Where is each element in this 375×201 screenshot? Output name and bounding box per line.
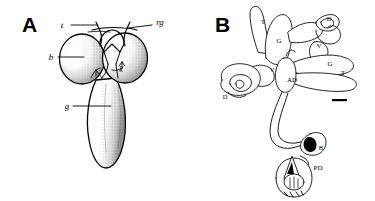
scale-bar: [332, 99, 347, 101]
label-k: k: [119, 65, 123, 74]
spiral-left-inner: [236, 80, 244, 88]
label-t-upper-left: T: [261, 18, 265, 25]
label-pd: PD: [314, 164, 323, 172]
panel-a-drawing: t rg b k g: [0, 0, 188, 201]
label-g-right: G: [327, 60, 332, 68]
label-g-upper-center: G: [276, 37, 281, 45]
label-t: t: [61, 20, 64, 30]
tubule-right-lower: [290, 73, 356, 92]
label-v-right: V: [317, 42, 322, 49]
panel-b-drawing: T G D V G T V AD D B PD: [188, 0, 375, 201]
label-b: b: [49, 52, 54, 62]
node-ad: [275, 58, 296, 93]
label-rg: rg: [156, 17, 164, 27]
label-b-bulb: B: [319, 144, 324, 151]
label-d-upper-right: D: [327, 15, 332, 22]
label-ad-center: AD: [287, 76, 297, 84]
panel-a: A: [0, 0, 188, 201]
label-g: g: [65, 101, 70, 111]
panel-b: B: [188, 0, 375, 201]
label-v-left: V: [270, 66, 275, 73]
label-d-lower-left: D: [223, 93, 228, 100]
label-t-right: T: [341, 69, 345, 76]
leader-line-rg: [128, 25, 152, 28]
figure-container: A: [0, 0, 375, 201]
